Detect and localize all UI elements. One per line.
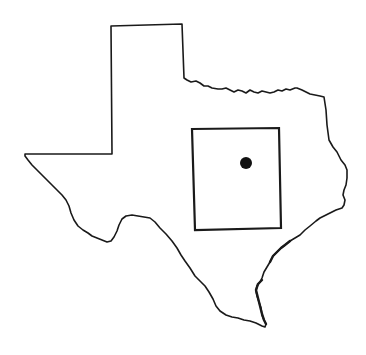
texas-locator-map [0,0,366,355]
site-location-marker [240,157,252,169]
